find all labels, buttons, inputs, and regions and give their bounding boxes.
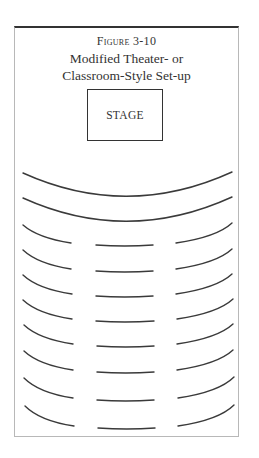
seating-row-split-7 xyxy=(24,377,234,401)
row-center-segment xyxy=(97,346,154,347)
row-center-segment xyxy=(97,400,154,401)
seating-row-full-1 xyxy=(23,172,232,196)
row-center-segment xyxy=(96,296,153,297)
row-center-segment xyxy=(98,428,155,429)
row-left-segment xyxy=(23,225,71,243)
row-left-segment xyxy=(24,351,73,370)
row-left-segment xyxy=(25,406,74,426)
seating-row-split-2 xyxy=(23,249,232,272)
row-right-segment xyxy=(178,405,234,426)
row-center-segment xyxy=(97,372,154,373)
row-left-segment xyxy=(23,275,72,294)
seating-row-split-8 xyxy=(25,405,234,429)
row-right-segment xyxy=(176,223,232,243)
seating-row-full-2 xyxy=(23,197,232,221)
row-right-segment xyxy=(176,249,232,269)
seating-row-split-1 xyxy=(23,223,232,246)
row-left-segment xyxy=(24,325,73,344)
seating-row-split-4 xyxy=(23,299,233,322)
seating-row-split-5 xyxy=(24,324,233,347)
row-right-segment xyxy=(178,377,234,398)
row-left-segment xyxy=(23,250,71,269)
seating-row-split-3 xyxy=(23,274,232,297)
row-right-segment xyxy=(177,299,233,319)
row-center-segment xyxy=(96,245,153,246)
row-right-segment xyxy=(177,324,233,344)
row-center-segment xyxy=(96,321,154,322)
seating-rows xyxy=(0,0,259,458)
row-center-segment xyxy=(96,271,153,272)
row-right-segment xyxy=(176,274,232,294)
row-right-segment xyxy=(177,350,233,370)
seating-row-split-6 xyxy=(24,350,233,373)
row-left-segment xyxy=(24,378,73,398)
row-left-segment xyxy=(23,300,72,319)
